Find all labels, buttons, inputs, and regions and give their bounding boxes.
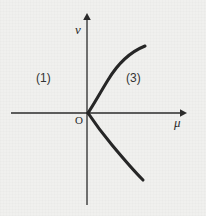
cusp-curve-lower-branch [88,113,143,180]
bifurcation-figure: ν μ O (1) (3) [0,0,206,216]
region-three-label: (3) [126,72,141,84]
mu-axis-arrowhead [180,109,187,117]
region-one-label: (1) [36,72,51,84]
mu-axis-label: μ [174,116,181,129]
plot-canvas [0,0,206,216]
nu-axis-arrowhead [83,13,91,20]
nu-axis-label: ν [75,23,81,36]
origin-label: O [75,115,83,126]
